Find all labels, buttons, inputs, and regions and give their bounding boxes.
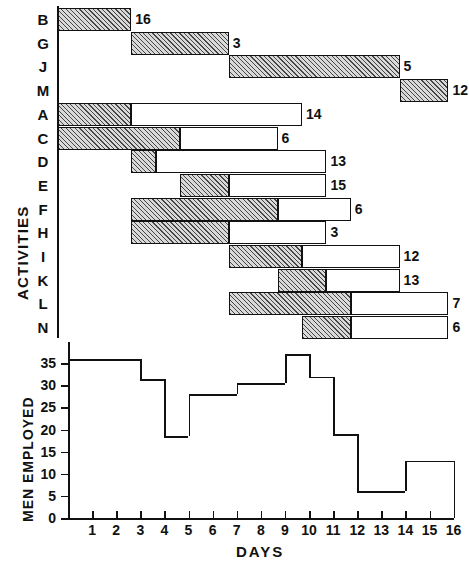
hist-step-top-11-12 (333, 434, 357, 436)
activity-label-B: B (30, 11, 56, 28)
hist-x-tick-label-6: 6 (202, 522, 224, 538)
gantt-bar-K-float (326, 269, 399, 292)
gantt-bar-A-men-label: 14 (306, 106, 322, 122)
gantt-bar-G-worked (131, 32, 229, 55)
gantt-bar-C-float (180, 127, 278, 150)
gantt-bar-D-worked (131, 150, 155, 173)
hist-x-tick-label-12: 12 (346, 522, 368, 538)
gantt-bar-B-men-label: 16 (135, 11, 151, 27)
hist-x-tick-8 (261, 511, 263, 518)
hist-x-tick-1 (92, 511, 94, 518)
gantt-bar-E-men-label: 15 (330, 177, 346, 193)
gantt-bar-J-worked (229, 55, 400, 78)
hist-y-tick-35 (61, 363, 68, 365)
gantt-bar-D-float (156, 150, 327, 173)
hist-step-riser-11 (333, 377, 335, 434)
hist-step-riser-12 (357, 434, 359, 491)
gantt-bar-F-worked (131, 198, 277, 221)
hist-step-riser-3 (140, 359, 142, 379)
hist-x-tick-6 (213, 511, 215, 518)
hist-step-top-0-3 (68, 359, 140, 361)
activity-label-I: I (30, 248, 56, 265)
hist-x-tick-label-7: 7 (226, 522, 248, 538)
hist-x-tick-7 (237, 511, 239, 518)
activity-label-F: F (30, 201, 56, 218)
gantt-bar-K-men-label: 13 (404, 272, 420, 288)
hist-x-tick-label-11: 11 (322, 522, 344, 538)
hist-x-tick-13 (381, 511, 383, 518)
gantt-bar-I-men-label: 12 (404, 248, 420, 264)
men-employed-histogram: 05101520253035 12345678910111213141516 (0, 340, 469, 566)
gantt-bar-L-men-label: 7 (452, 295, 460, 311)
hist-x-tick-10 (309, 511, 311, 518)
hist-x-tick-5 (189, 511, 191, 518)
gantt-bar-E-worked (180, 174, 229, 197)
activity-label-C: C (30, 130, 56, 147)
hist-x-tick-label-16: 16 (443, 522, 465, 538)
hist-x-tick-2 (116, 511, 118, 518)
hist-x-tick-12 (357, 511, 359, 518)
gantt-y-axis-title: ACTIVITIES (14, 205, 31, 300)
hist-x-tick-label-15: 15 (419, 522, 441, 538)
hist-step-top-7-9 (237, 383, 285, 385)
activity-label-M: M (30, 82, 56, 99)
hist-step-riser-14 (405, 461, 407, 492)
activity-label-N: N (30, 319, 56, 336)
gantt-bar-B-worked (58, 8, 131, 31)
hist-x-tick-label-1: 1 (81, 522, 103, 538)
figure-canvas: BGJMACDEFHIKLN 163512146131563121376 ACT… (0, 0, 469, 566)
hist-step-top-14-16 (405, 461, 453, 463)
activity-label-G: G (30, 35, 56, 52)
hist-x-tick-label-9: 9 (274, 522, 296, 538)
gantt-bar-C-worked (58, 127, 180, 150)
hist-y-tick-30 (61, 385, 68, 387)
hist-y-tick-10 (61, 474, 68, 476)
gantt-bar-I-worked (229, 245, 302, 268)
hist-x-tick-label-5: 5 (178, 522, 200, 538)
hist-x-tick-label-3: 3 (129, 522, 151, 538)
hist-y-tick-label-35: 35 (30, 355, 56, 371)
hist-x-tick-label-13: 13 (370, 522, 392, 538)
activity-label-H: H (30, 224, 56, 241)
gantt-bar-N-float (351, 316, 449, 339)
gantt-bar-H-float (229, 221, 327, 244)
hist-x-axis-line (68, 518, 454, 520)
gantt-bar-E-float (229, 174, 327, 197)
hist-step-top-3-4 (140, 379, 164, 381)
gantt-bar-M-men-label: 12 (452, 82, 468, 98)
hist-y-tick-0 (61, 518, 68, 520)
hist-y-tick-20 (61, 430, 68, 432)
hist-y-tick-15 (61, 452, 68, 454)
hist-x-tick-4 (164, 511, 166, 518)
gantt-bar-A-worked (58, 103, 131, 126)
hist-y-tick-25 (61, 407, 68, 409)
activity-label-L: L (30, 295, 56, 312)
gantt-bar-N-men-label: 6 (452, 319, 460, 335)
hist-step-closing-riser (454, 461, 456, 518)
activity-label-K: K (30, 272, 56, 289)
activity-label-A: A (30, 106, 56, 123)
gantt-bar-G-men-label: 3 (233, 35, 241, 51)
gantt-bar-I-float (302, 245, 400, 268)
activity-label-D: D (30, 153, 56, 170)
hist-x-tick-14 (405, 511, 407, 518)
hist-step-top-10-11 (309, 377, 333, 379)
hist-step-riser-7 (237, 383, 239, 394)
x-axis-title: DAYS (236, 543, 284, 560)
gantt-y-axis-line (57, 6, 59, 338)
gantt-bar-J-men-label: 5 (404, 58, 412, 74)
hist-step-top-12-14 (357, 491, 405, 493)
hist-step-riser-4 (164, 379, 166, 436)
gantt-bar-F-men-label: 6 (355, 201, 363, 217)
hist-y-tick-5 (61, 496, 68, 498)
gantt-bar-N-worked (302, 316, 351, 339)
hist-y-axis-title: MEN EMPLOYED (20, 396, 36, 522)
hist-step-opening-riser (68, 359, 70, 518)
activity-label-J: J (30, 58, 56, 75)
hist-x-tick-11 (333, 511, 335, 518)
gantt-bar-L-float (351, 292, 449, 315)
hist-x-tick-label-14: 14 (394, 522, 416, 538)
hist-y-tick-label-30: 30 (30, 377, 56, 393)
hist-step-riser-5 (189, 394, 191, 436)
gantt-bar-K-worked (278, 269, 327, 292)
